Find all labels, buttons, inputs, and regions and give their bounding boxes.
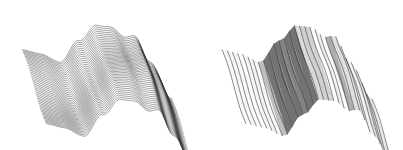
surface-wireframe-left bbox=[0, 0, 200, 150]
surface-plot-shaded-strips bbox=[200, 0, 403, 150]
surface-wireframe-right bbox=[200, 0, 403, 150]
surface-lines bbox=[22, 25, 196, 150]
surface-plot-dense-lines bbox=[0, 0, 200, 150]
surface-lines bbox=[222, 25, 396, 150]
